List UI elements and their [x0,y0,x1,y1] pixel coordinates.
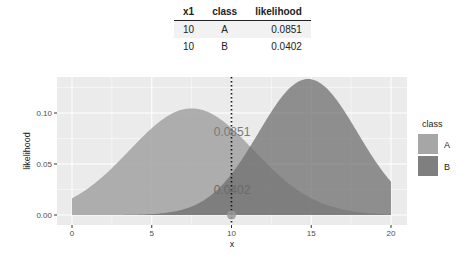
x-axis-label: x [230,239,235,249]
x-axis: 05101520 [70,225,396,238]
legend-title: class [422,119,443,129]
density-chart: 0.0851 0.0402 05101520 0.000.050.10 x li… [0,0,467,260]
legend-label-b: B [444,162,450,172]
label-b: 0.0402 [214,183,251,197]
legend-swatch-a [418,134,438,154]
legend-swatch-b [418,156,438,176]
y-axis: 0.000.050.10 [36,109,57,220]
legend: class A B [418,119,450,176]
svg-text:5: 5 [150,229,155,238]
label-a: 0.0851 [214,125,251,139]
svg-text:0: 0 [70,229,75,238]
svg-text:20: 20 [387,229,396,238]
svg-text:10: 10 [227,229,236,238]
svg-text:15: 15 [307,229,316,238]
y-axis-label: likelihood [22,132,32,170]
svg-text:0.10: 0.10 [36,109,52,118]
svg-text:0.05: 0.05 [36,160,52,169]
legend-label-a: A [444,140,450,150]
svg-text:0.00: 0.00 [36,211,52,220]
point-x10 [227,211,236,220]
